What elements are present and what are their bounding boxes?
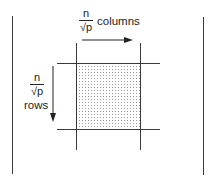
- columns-fraction: n √p: [79, 8, 93, 33]
- rows-fraction: n √p: [30, 72, 44, 97]
- columns-arrow-icon: [82, 37, 133, 43]
- rows-denominator: √p: [30, 86, 44, 97]
- rows-arrow-icon: [50, 66, 56, 122]
- rows-label: rows: [24, 100, 48, 112]
- rows-numerator: n: [30, 72, 44, 83]
- columns-numerator: n: [79, 8, 93, 19]
- columns-denominator: √p: [79, 22, 93, 33]
- columns-label: columns: [97, 16, 140, 28]
